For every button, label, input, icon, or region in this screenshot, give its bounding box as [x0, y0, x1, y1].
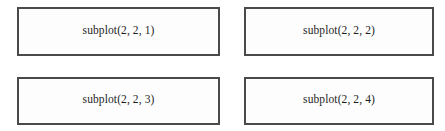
subplot-cell-2-label: subplot(2, 2, 2)	[303, 25, 375, 37]
subplot-cell-2: subplot(2, 2, 2)	[244, 7, 434, 56]
subplot-cell-1: subplot(2, 2, 1)	[17, 7, 220, 56]
subplot-cell-1-label: subplot(2, 2, 1)	[83, 25, 155, 37]
subplot-cell-3-label: subplot(2, 2, 3)	[83, 94, 155, 106]
subplot-grid-diagram: subplot(2, 2, 1) subplot(2, 2, 2) subplo…	[0, 0, 445, 131]
subplot-cell-4-label: subplot(2, 2, 4)	[303, 94, 375, 106]
subplot-cell-3: subplot(2, 2, 3)	[17, 77, 220, 125]
subplot-cell-4: subplot(2, 2, 4)	[244, 77, 434, 125]
